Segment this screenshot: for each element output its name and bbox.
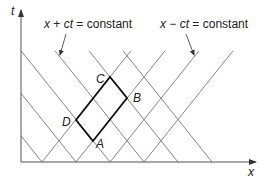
label-ct: ct <box>180 17 189 31</box>
char-line <box>110 51 199 162</box>
t-axis-label: t <box>11 5 14 17</box>
label-ct: ct <box>64 17 73 31</box>
vertex-label-d: D <box>62 116 71 128</box>
pointer-arrow-minus <box>186 34 194 55</box>
characteristics-diagram: t x x + ct = constant x − ct = constant … <box>0 0 265 188</box>
vertex-label-a: A <box>96 138 104 150</box>
x-axis-label: x <box>248 166 254 178</box>
x-plus-ct-lines <box>21 51 212 162</box>
char-line <box>21 136 42 162</box>
x-minus-ct-lines <box>42 51 233 162</box>
x-minus-ct-label: x − ct = constant <box>160 18 248 30</box>
label-rest: = constant <box>73 17 132 31</box>
label-op: − <box>166 17 180 31</box>
x-plus-ct-label: x + ct = constant <box>44 18 132 30</box>
label-rest: = constant <box>189 17 248 31</box>
pointer-arrow-plus <box>60 34 66 55</box>
char-line <box>123 51 212 162</box>
vertex-label-b: B <box>133 92 141 104</box>
label-op: + <box>50 17 64 31</box>
char-line <box>144 51 233 162</box>
vertex-label-c: C <box>96 73 105 85</box>
